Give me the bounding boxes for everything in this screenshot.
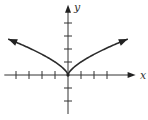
ticks [16, 23, 107, 101]
origin-point [66, 73, 69, 76]
y-axis-arrow-icon [65, 5, 71, 13]
x-axis-arrow-icon [128, 72, 136, 78]
x-axis-label: x [140, 69, 147, 82]
curve-left-arrow-icon [8, 39, 18, 46]
graph: x y [0, 0, 148, 120]
curve-right-arrow-icon [118, 39, 128, 46]
axes [4, 5, 135, 114]
y-axis-label: y [73, 1, 81, 14]
